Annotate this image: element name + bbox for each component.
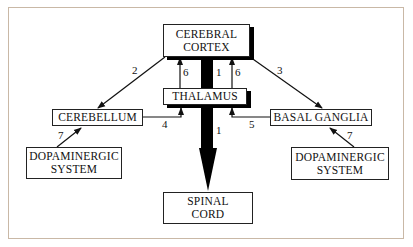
- dopaminergic-system-left-node: DOPAMINERGIC SYSTEM: [26, 147, 122, 179]
- edge-label-2: 2: [132, 64, 138, 76]
- thalamus-node: THALAMUS: [163, 88, 247, 105]
- edge-label-6-right: 6: [235, 66, 241, 78]
- basal-ganglia-label: BASAL GANGLIA: [273, 111, 368, 124]
- dopaminergic-left-line2: SYSTEM: [51, 163, 98, 176]
- dopaminergic-system-right-node: DOPAMINERGIC SYSTEM: [291, 147, 389, 180]
- edge-label-6-left: 6: [183, 66, 189, 78]
- cerebral-cortex-node: CEREBRAL CORTEX: [163, 24, 250, 57]
- basal-ganglia-node: BASAL GANGLIA: [270, 109, 372, 126]
- cerebellum-label: CEREBELLUM: [58, 111, 137, 124]
- arrow-4: [143, 108, 181, 117]
- thalamus-label: THALAMUS: [172, 90, 238, 103]
- edge-label-3: 3: [277, 64, 283, 76]
- edge-label-4: 4: [162, 118, 168, 130]
- cerebral-cortex-line2: CORTEX: [183, 41, 230, 54]
- edge-label-5: 5: [249, 118, 255, 130]
- cerebral-cortex-line1: CEREBRAL: [176, 28, 238, 41]
- dopaminergic-right-line1: DOPAMINERGIC: [295, 151, 385, 164]
- corticospinal-arrow: [199, 57, 217, 191]
- spinal-cord-line2: CORD: [192, 208, 225, 221]
- arrow-3: [250, 57, 322, 108]
- dopaminergic-left-line1: DOPAMINERGIC: [29, 150, 119, 163]
- cerebellum-node: CEREBELLUM: [52, 109, 143, 126]
- spinal-cord-node: SPINAL CORD: [163, 192, 253, 224]
- dopaminergic-right-line2: SYSTEM: [317, 164, 364, 177]
- edge-label-1-upper: 1: [216, 66, 222, 78]
- spinal-cord-line1: SPINAL: [187, 195, 228, 208]
- edge-label-7-right: 7: [347, 129, 353, 141]
- edge-label-1-lower: 1: [216, 124, 222, 136]
- edge-label-7-left: 7: [58, 129, 64, 141]
- arrow-5: [232, 108, 270, 117]
